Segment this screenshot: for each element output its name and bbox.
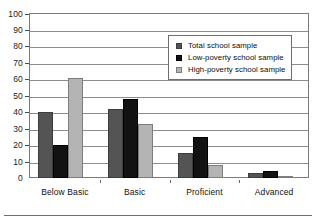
bar [138, 124, 153, 178]
bar [108, 109, 123, 178]
bar [263, 171, 278, 178]
y-tick-label: 70 [13, 58, 23, 68]
x-tick-label: Below Basic [41, 187, 88, 197]
y-tick-mark [25, 63, 29, 64]
legend-item-low-poverty-school-sample: Low-poverty school sample [173, 52, 286, 63]
legend-item-total-school-sample: Total school sample [173, 40, 286, 51]
legend-item-high-poverty-school-sample: High-poverty school sample [173, 64, 286, 75]
x-tick-mark [239, 180, 240, 183]
y-axis: 1009080706050403020100 [0, 0, 29, 200]
bar [178, 153, 193, 178]
bar [278, 176, 293, 178]
legend-swatch-icon [176, 67, 182, 73]
x-axis: Below BasicBasicProficientAdvanced [29, 180, 310, 200]
x-tick-label: Proficient [186, 187, 222, 197]
y-tick-mark [25, 162, 29, 163]
legend-item-label: Total school sample [188, 41, 257, 50]
y-tick-label: 30 [13, 124, 23, 134]
bar [53, 145, 68, 178]
y-tick-label: 80 [13, 41, 23, 51]
y-tick-label: 20 [13, 140, 23, 150]
y-tick-label: 90 [13, 25, 23, 35]
x-tick-mark [100, 180, 101, 183]
bar [248, 173, 263, 178]
x-tick-label: Basic [124, 187, 145, 197]
y-tick-mark [25, 46, 29, 47]
chart-legend: Total school sample Low-poverty school s… [168, 35, 292, 80]
y-tick-mark [25, 96, 29, 97]
y-tick-mark [25, 79, 29, 80]
footer-divider [4, 215, 312, 216]
bar [123, 99, 138, 178]
y-tick-label: 100 [8, 9, 23, 19]
y-tick-label: 10 [13, 157, 23, 167]
legend-swatch-icon [176, 55, 182, 61]
x-tick-mark [170, 180, 171, 183]
y-tick-label: 0 [18, 173, 23, 183]
bar [38, 112, 53, 178]
y-tick-label: 50 [13, 91, 23, 101]
y-tick-mark [25, 145, 29, 146]
y-tick-label: 40 [13, 107, 23, 117]
bar [193, 137, 208, 178]
legend-item-label: High-poverty school sample [188, 65, 286, 74]
y-tick-mark [25, 30, 29, 31]
grouped-bar-chart: 1009080706050403020100 Below BasicBasicP… [0, 0, 316, 219]
bar-group [100, 14, 170, 178]
y-tick-mark [25, 14, 29, 15]
y-tick-mark [25, 112, 29, 113]
bar [68, 78, 83, 178]
x-tick-label: Advanced [255, 187, 294, 197]
bar-group [30, 14, 100, 178]
legend-item-label: Low-poverty school sample [188, 53, 284, 62]
legend-swatch-icon [176, 43, 182, 49]
bar [208, 165, 223, 178]
y-tick-label: 60 [13, 74, 23, 84]
y-tick-mark [25, 129, 29, 130]
